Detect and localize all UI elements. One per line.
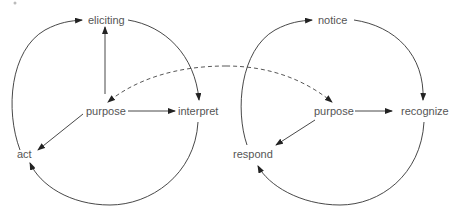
node-interpret: interpret bbox=[178, 105, 218, 117]
node-act: act bbox=[17, 148, 32, 160]
arrow-purpose-to-act bbox=[38, 114, 83, 150]
arc-interpret-to-act bbox=[30, 122, 198, 205]
dashed-connector bbox=[108, 66, 332, 102]
node-notice: notice bbox=[318, 14, 347, 26]
arc-eliciting-to-interpret bbox=[128, 20, 199, 100]
node-eliciting: eliciting bbox=[88, 14, 125, 26]
arrow-purpose-to-respond bbox=[276, 120, 315, 145]
node-right-purpose: purpose bbox=[314, 105, 354, 117]
arc-act-to-eliciting bbox=[12, 20, 82, 150]
node-respond: respond bbox=[233, 148, 273, 160]
arc-recognize-to-respond bbox=[258, 122, 424, 205]
arc-notice-to-recognize bbox=[354, 20, 423, 100]
corner-mark bbox=[14, 2, 17, 5]
node-left-purpose: purpose bbox=[86, 105, 126, 117]
diagram-canvas bbox=[0, 0, 454, 211]
dashed-to-left-purpose bbox=[108, 66, 226, 102]
node-recognize: recognize bbox=[401, 105, 449, 117]
